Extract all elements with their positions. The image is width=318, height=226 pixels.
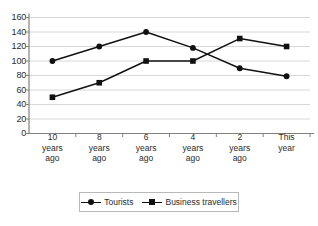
x-tick-label: 8yearsago [76, 132, 123, 176]
x-tick-label-line: ago [29, 153, 76, 164]
x-tick-label-line: 6 [123, 132, 170, 143]
x-tick-label-line: This [263, 132, 310, 143]
series-lines [52, 32, 286, 97]
x-tick-label-line: 8 [76, 132, 123, 143]
square-marker-icon [142, 197, 162, 207]
x-tick-label-line: years [216, 143, 263, 154]
legend: Tourists Business travellers [79, 192, 239, 212]
x-tick-label-line: 4 [170, 132, 217, 143]
x-tick-label: Thisyear [263, 132, 310, 176]
x-tick-label-line: ago [216, 153, 263, 164]
legend-item-label: Business travellers [165, 198, 236, 207]
gridlines [29, 18, 310, 120]
x-tick-label-line: years [170, 143, 217, 154]
x-tick-label-line: ago [123, 153, 170, 164]
x-tick-label-line: years [123, 143, 170, 154]
x-tick-label: 10yearsago [29, 132, 76, 176]
line-chart: 160 140 120 100 80 60 40 20 0 10yearsago… [0, 0, 318, 226]
x-tick-label-line: years [76, 143, 123, 154]
x-tick-label-line: 2 [216, 132, 263, 143]
x-tick-label: 4yearsago [170, 132, 217, 176]
legend-item-label: Tourists [104, 198, 133, 207]
x-tick-label-line: year [263, 143, 310, 154]
legend-item-business-travellers[interactable]: Business travellers [142, 197, 236, 207]
x-tick-label: 6yearsago [123, 132, 170, 176]
x-tick-label-line: ago [170, 153, 217, 164]
x-tick-label-line: 10 [29, 132, 76, 143]
plot-area: 160 140 120 100 80 60 40 20 0 10yearsago… [0, 0, 318, 180]
circle-marker-icon [81, 197, 101, 207]
x-tick-label-line: years [29, 143, 76, 154]
x-tick-label: 2yearsago [216, 132, 263, 176]
legend-item-tourists[interactable]: Tourists [81, 197, 133, 207]
x-tick-label-line: ago [76, 153, 123, 164]
